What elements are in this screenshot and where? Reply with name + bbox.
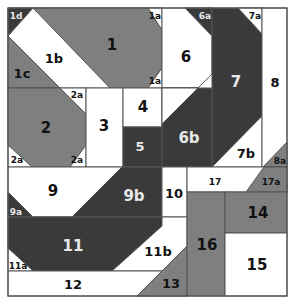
label-6a: 6a [199,11,211,21]
label-9a: 9a [10,207,22,217]
label-4: 4 [138,98,148,116]
label-8: 8 [270,75,279,90]
label-11: 11 [63,237,84,255]
label-5: 5 [135,139,144,154]
quilt-block-diagram: 1d 1b 1 1c 1a 1a 6a 6 6b 7a 7 7b 8 8a 2a… [0,0,295,304]
label-11a: 11a [9,261,28,271]
label-17a: 17a [262,177,281,187]
label-12: 12 [64,277,82,292]
label-1b: 1b [45,51,63,66]
label-1a-top: 1a [149,11,161,21]
label-6b: 6b [178,129,199,147]
label-2a-bottom-right: 2a [71,155,83,165]
label-1c: 1c [14,66,31,81]
label-6: 6 [181,48,191,66]
label-13: 13 [162,276,180,291]
label-8a: 8a [274,156,286,166]
label-17: 17 [209,177,222,187]
label-2: 2 [41,119,51,137]
label-3: 3 [99,117,109,135]
label-10: 10 [165,186,183,201]
label-7: 7 [231,73,241,91]
label-1a-bottom: 1a [149,76,161,86]
label-1d: 1d [10,11,23,21]
label-7a: 7a [249,11,261,21]
label-9: 9 [48,182,58,200]
label-15: 15 [247,256,268,274]
label-7b: 7b [237,146,255,161]
label-2a-bottom-left: 2a [11,155,23,165]
label-1: 1 [107,36,117,54]
label-11b: 11b [144,244,171,259]
label-2a-top: 2a [71,90,83,100]
label-9b: 9b [123,187,144,205]
label-16: 16 [197,236,218,254]
label-14: 14 [248,204,269,222]
